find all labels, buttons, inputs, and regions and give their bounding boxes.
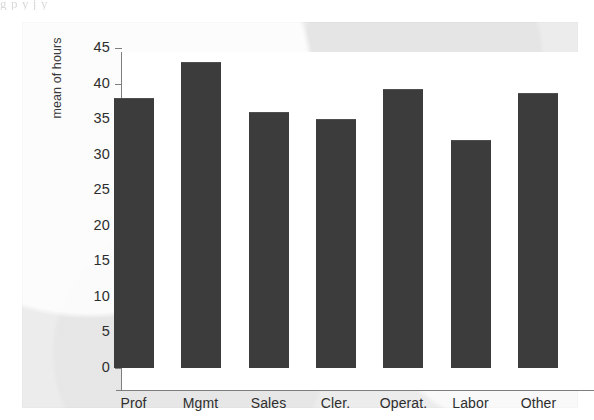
y-axis-tick-label: 30 [24, 147, 110, 162]
y-axis-tick [115, 368, 122, 369]
y-axis-tick-label-wrap: 25 [22, 182, 110, 198]
y-axis-tick-label: 25 [24, 182, 110, 197]
y-axis-tick-label-wrap: 35 [22, 111, 110, 127]
x-axis-tick-label: Labor [437, 396, 504, 411]
x-axis-line [116, 390, 594, 391]
bar [518, 93, 558, 368]
y-axis-tick-label-wrap: 5 [22, 324, 110, 340]
page-top-cut-text: g p y j y [0, 0, 591, 10]
x-axis-tick-label: Operat. [370, 396, 437, 411]
y-axis-tick-label: 0 [24, 360, 110, 375]
figure-panel: mean of hours 051015202530354045 ProfMgm… [22, 22, 578, 408]
y-axis-tick-label: 10 [24, 289, 110, 304]
y-axis-tick-label-wrap: 15 [22, 253, 110, 269]
x-axis-tick-label: Sales [235, 396, 302, 411]
y-axis-tick-label-wrap: 45 [22, 40, 110, 56]
y-axis-tick-label: 35 [24, 111, 110, 126]
y-axis-tick-label-wrap: 10 [22, 289, 110, 305]
x-axis-tick-label: Other [505, 396, 572, 411]
y-axis-tick-label: 15 [24, 253, 110, 268]
y-axis-tick-label-wrap: 40 [22, 76, 110, 92]
bar [114, 98, 154, 368]
bar [181, 62, 221, 368]
bars-layer [100, 30, 572, 368]
x-axis-tick-label: Cler. [302, 396, 369, 411]
x-axis-tick-label: Prof [100, 396, 167, 411]
bar [451, 140, 491, 368]
y-axis-tick-label-wrap: 20 [22, 218, 110, 234]
y-axis-tick-label-wrap: 0 [22, 360, 110, 376]
y-axis-tick-label: 40 [24, 76, 110, 91]
y-axis-tick-label-wrap: 30 [22, 147, 110, 163]
y-axis-tick-label: 5 [24, 324, 110, 339]
y-axis-tick-label: 20 [24, 218, 110, 233]
bar [249, 112, 289, 368]
bar [383, 89, 423, 368]
y-axis-tick-label: 45 [24, 40, 110, 55]
x-axis-tick-label: Mgmt [167, 396, 234, 411]
bar [316, 119, 356, 368]
